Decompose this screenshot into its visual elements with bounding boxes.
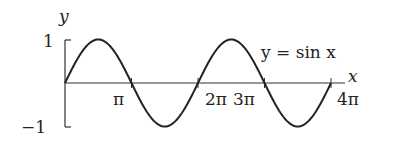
x-axis-label: x (348, 66, 358, 86)
curve-annotation: y = sin x (260, 42, 336, 62)
y-axis-label: y (58, 6, 69, 26)
x-tick-label-4pi: 4π (337, 89, 359, 109)
x-tick-label-pi: π (113, 89, 124, 109)
x-tick-label-3pi: 3π (233, 89, 255, 109)
y-tick-label-neg1: −1 (21, 117, 46, 137)
y-tick-label-1: 1 (43, 31, 54, 51)
sine-chart: y x 1 −1 π 2π 3π 4π y = sin x (0, 0, 402, 143)
x-tick-label-2pi: 2π (205, 89, 227, 109)
